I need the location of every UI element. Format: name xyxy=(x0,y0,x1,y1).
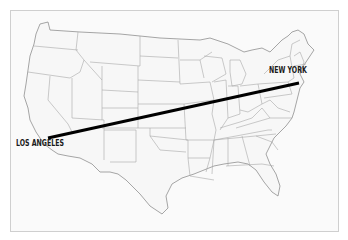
city-label-new-york: NEW YORK xyxy=(269,67,307,75)
us-map xyxy=(0,0,348,240)
city-label-los-angeles: LOS ANGELES xyxy=(16,140,64,148)
